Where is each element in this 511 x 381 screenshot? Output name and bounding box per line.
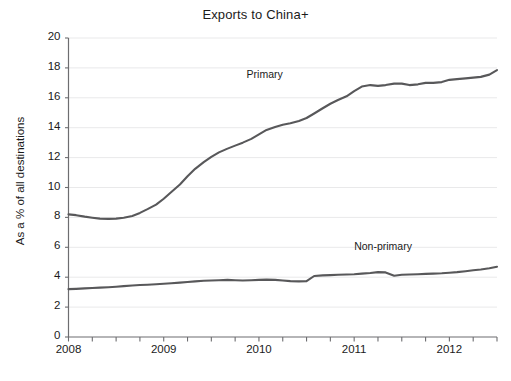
y-tick-label: 2 [35,299,61,311]
x-tick-label: 2012 [424,343,474,355]
x-tick-label: 2010 [234,343,284,355]
plot-area [0,0,511,381]
series-label-non-primary: Non-primary [354,240,412,252]
chart-figure: Exports to China+ As a % of all destinat… [0,0,511,381]
y-tick-label: 14 [35,120,61,132]
y-tick-label: 16 [35,90,61,102]
y-tick-label: 4 [35,269,61,281]
series-line-non-primary [69,267,498,289]
y-tick-label: 20 [35,30,61,42]
y-tick-label: 12 [35,150,61,162]
y-tick-label: 10 [35,180,61,192]
y-tick-label: 8 [35,209,61,221]
series-lines [69,70,498,289]
x-tick-label: 2009 [139,343,189,355]
series-line-primary [69,70,498,219]
x-tick-label: 2011 [329,343,379,355]
series-label-primary: Primary [247,68,283,80]
y-tick-label: 0 [35,329,61,341]
y-tick-label: 18 [35,60,61,72]
y-tick-label: 6 [35,239,61,251]
x-tick-label: 2008 [44,343,94,355]
